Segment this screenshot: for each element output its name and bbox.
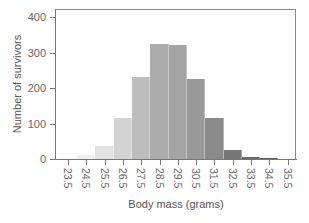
x-tick-label: 32.5	[227, 168, 239, 188]
x-tick-label: 24.5	[80, 168, 92, 188]
y-axis-line	[55, 9, 56, 159]
y-tick-label: 400	[28, 11, 46, 23]
bar-28.5	[150, 44, 168, 159]
x-tick	[214, 160, 215, 165]
x-tick	[86, 160, 87, 165]
x-tick-label: 31.5	[208, 168, 220, 188]
x-tick	[105, 160, 106, 165]
x-tick	[123, 160, 124, 165]
x-tick-label: 23.5	[62, 168, 74, 188]
x-tick-label: 29.5	[172, 168, 184, 188]
bar-27.5	[132, 77, 150, 159]
x-tick-label: 33.5	[245, 168, 257, 188]
x-tick-label: 30.5	[190, 168, 202, 188]
x-tick-label: 25.5	[99, 168, 111, 188]
x-tick	[269, 160, 270, 165]
x-tick	[141, 160, 142, 165]
y-tick	[50, 159, 55, 160]
x-tick-label: 27.5	[135, 168, 147, 188]
bar-25.5	[95, 146, 113, 159]
x-tick	[196, 160, 197, 165]
y-tick-label: 300	[28, 47, 46, 59]
x-tick-label: 28.5	[154, 168, 166, 188]
x-tick	[68, 160, 69, 165]
y-tick	[50, 53, 55, 54]
y-tick-label: 100	[28, 118, 46, 130]
bar-30.5	[187, 79, 205, 159]
y-tick-label: 200	[28, 82, 46, 94]
bar-32.5	[224, 150, 242, 159]
x-tick	[160, 160, 161, 165]
x-tick-label: 35.5	[282, 168, 294, 188]
y-tick	[50, 88, 55, 89]
y-tick	[50, 124, 55, 125]
y-axis-label: Number of survivors	[11, 35, 23, 133]
x-tick	[251, 160, 252, 165]
bar-29.5	[169, 45, 187, 159]
x-axis-label: Body mass (grams)	[128, 198, 223, 210]
x-tick	[288, 160, 289, 165]
x-tick-label: 34.5	[263, 168, 275, 188]
y-tick	[50, 17, 55, 18]
x-tick-label: 26.5	[117, 168, 129, 188]
x-tick	[178, 160, 179, 165]
bar-26.5	[114, 118, 132, 159]
x-axis-line	[55, 159, 297, 160]
x-tick	[233, 160, 234, 165]
bar-31.5	[205, 118, 223, 159]
y-tick-label: 0	[40, 153, 46, 165]
